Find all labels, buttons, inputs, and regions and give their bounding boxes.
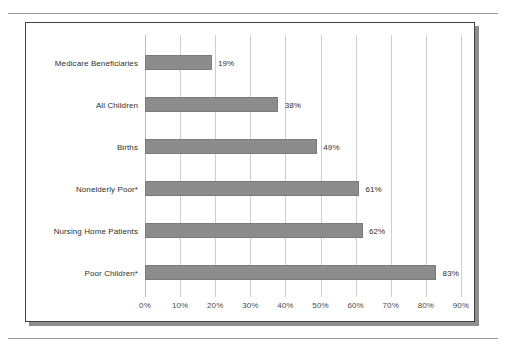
x-tick-30: 30% <box>242 301 258 310</box>
x-tick-40: 40% <box>277 301 293 310</box>
x-tick-60: 60% <box>347 301 363 310</box>
value-label: 19% <box>218 58 234 67</box>
category-label: Medicare Beneficiaries <box>55 58 138 67</box>
bar-rows: Medicare Beneficiaries 19% All Children … <box>145 35 461 297</box>
gridline-90 <box>461 35 462 297</box>
bar-row-nonelderly-poor: Nonelderly Poor* 61% <box>145 181 461 196</box>
value-label: 61% <box>365 184 381 193</box>
value-label: 38% <box>285 100 301 109</box>
bar-row-births: Births 49% <box>145 139 461 154</box>
top-divider-rule <box>8 13 498 14</box>
bar-chart: Medicare Beneficiaries 19% All Children … <box>26 23 474 321</box>
category-label: Poor Children* <box>85 268 138 277</box>
category-label: Births <box>117 142 138 151</box>
bar-row-nursing-home-patients: Nursing Home Patients 62% <box>145 223 461 238</box>
x-tick-80: 80% <box>418 301 434 310</box>
plot-area: Medicare Beneficiaries 19% All Children … <box>145 35 461 297</box>
x-axis-tick-labels: 0% 10% 20% 30% 40% 50% 60% 70% 80% 90% <box>145 301 461 317</box>
bar[interactable] <box>145 139 317 154</box>
category-label: Nonelderly Poor* <box>76 184 138 193</box>
bar[interactable] <box>145 55 212 70</box>
bar-row-poor-children: Poor Children* 83% <box>145 265 461 280</box>
figure-page: Medicare Beneficiaries 19% All Children … <box>0 0 506 348</box>
bar-row-all-children: All Children 38% <box>145 97 461 112</box>
value-label: 49% <box>323 142 339 151</box>
chart-frame: Medicare Beneficiaries 19% All Children … <box>25 22 475 322</box>
bottom-divider-rule <box>8 338 498 339</box>
x-tick-70: 70% <box>383 301 399 310</box>
category-label: Nursing Home Patients <box>54 226 138 235</box>
x-tick-50: 50% <box>312 301 328 310</box>
value-label: 83% <box>443 268 459 277</box>
bar[interactable] <box>145 97 278 112</box>
x-tick-90: 90% <box>453 301 469 310</box>
x-tick-0: 0% <box>139 301 151 310</box>
bar-row-medicare-beneficiaries: Medicare Beneficiaries 19% <box>145 55 461 70</box>
x-tick-20: 20% <box>207 301 223 310</box>
bar[interactable] <box>145 181 359 196</box>
bar[interactable] <box>145 223 363 238</box>
x-tick-10: 10% <box>172 301 188 310</box>
bar[interactable] <box>145 265 436 280</box>
value-label: 62% <box>369 226 385 235</box>
category-label: All Children <box>96 100 138 109</box>
